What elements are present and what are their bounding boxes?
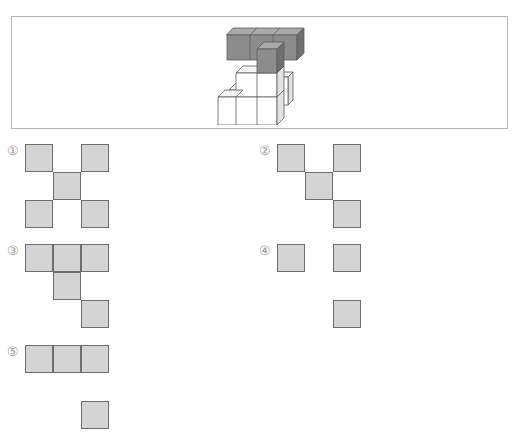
grid-square [81, 200, 109, 228]
grid-square [25, 200, 53, 228]
option-5[interactable]: ⑤ [25, 345, 109, 429]
grid-square [81, 144, 109, 172]
option-grid [277, 144, 361, 228]
option-2[interactable]: ② [277, 144, 361, 228]
grid-square [277, 144, 305, 172]
cube-structure-figure [216, 25, 306, 125]
option-grid [25, 144, 109, 228]
option-3[interactable]: ③ [25, 244, 109, 328]
grid-square [53, 244, 81, 272]
grid-square [333, 244, 361, 272]
option-grid [25, 345, 109, 429]
option-label: ① [7, 144, 19, 158]
grid-square [333, 144, 361, 172]
option-1[interactable]: ① [25, 144, 109, 228]
option-label: ④ [259, 244, 271, 258]
grid-square [25, 144, 53, 172]
grid-square [53, 345, 81, 373]
option-label: ② [259, 144, 271, 158]
grid-square [53, 272, 81, 300]
grid-square [333, 300, 361, 328]
grid-square [81, 401, 109, 429]
option-label: ⑤ [7, 345, 19, 359]
option-grid [277, 244, 361, 328]
grid-square [277, 244, 305, 272]
option-grid [25, 244, 109, 328]
grid-square [81, 300, 109, 328]
grid-square [305, 172, 333, 200]
grid-square [81, 244, 109, 272]
grid-square [53, 172, 81, 200]
grid-square [333, 200, 361, 228]
option-4[interactable]: ④ [277, 244, 361, 328]
grid-square [25, 345, 53, 373]
grid-square [25, 244, 53, 272]
option-label: ③ [7, 244, 19, 258]
grid-square [81, 345, 109, 373]
